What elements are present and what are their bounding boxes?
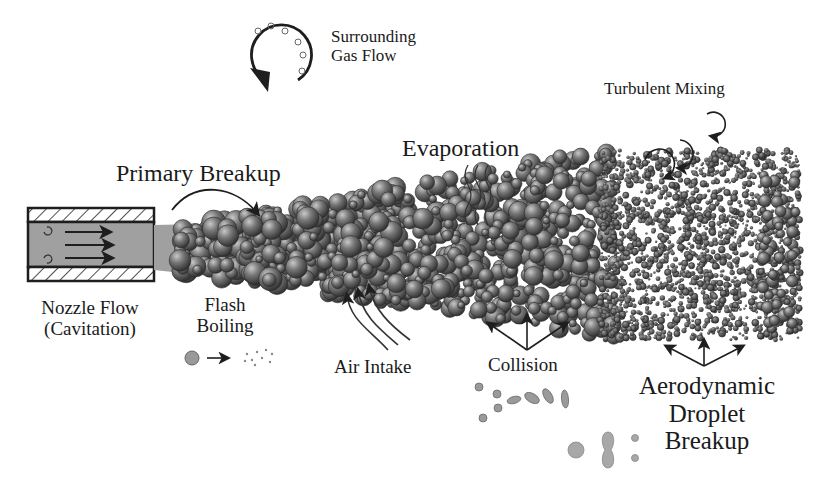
flash-boiling-icon <box>185 349 273 366</box>
evaporation-label: Evaporation <box>402 135 519 161</box>
three-arrows-icon <box>666 340 743 366</box>
nozzle-icon <box>28 208 154 281</box>
primary-breakup-label: Primary Breakup <box>116 160 281 186</box>
turbulent-mixing-label: Turbulent Mixing <box>604 80 725 99</box>
nozzle-flow-label: Nozzle Flow (Cavitation) <box>34 298 146 340</box>
circular-arrow-icon <box>250 23 311 92</box>
air-intake-label: Air Intake <box>334 357 412 378</box>
flash-boiling-label: Flash Boiling <box>185 295 265 337</box>
surrounding-gas-flow-label: Surrounding Gas Flow <box>331 28 416 65</box>
collision-label: Collision <box>488 355 558 376</box>
aerodynamic-droplet-breakup-label: Aerodynamic Droplet Breakup <box>622 372 792 455</box>
collision-sequence-icon <box>475 383 569 422</box>
